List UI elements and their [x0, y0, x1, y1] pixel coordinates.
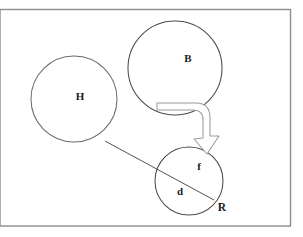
circle-b	[128, 21, 222, 115]
label-circle-b: B	[184, 52, 192, 64]
label-circle-h: H	[76, 90, 85, 102]
label-f: f	[197, 160, 201, 172]
label-r: R	[218, 201, 227, 213]
circle-fd	[155, 147, 223, 215]
diagram-canvas: H B f d R	[0, 0, 303, 237]
label-d: d	[177, 185, 183, 197]
block-arrow-b-to-fd	[157, 103, 219, 154]
outer-border-frame	[0, 10, 291, 227]
diagram-svg: H B f d R	[0, 0, 303, 237]
circle-h	[31, 56, 117, 142]
